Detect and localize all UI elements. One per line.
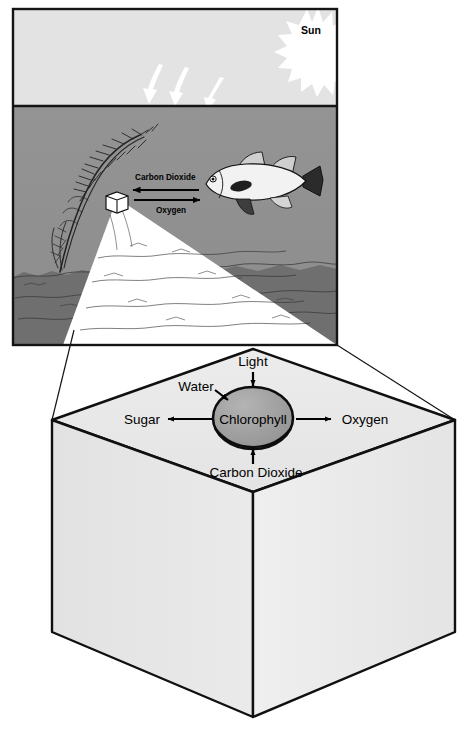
light-label: Light [238,354,268,369]
underwater-scene-panel: Sun [13,7,363,345]
chlorophyll-label: Chlorophyll [219,412,287,427]
fish-pupil [212,178,215,181]
figure-canvas: Sun [0,0,466,733]
chloroplast-closeup-cube: Light Water Sugar Chlorophyll Oxygen Car… [52,349,455,717]
magnifier-cube[interactable] [106,192,128,213]
photosynthesis-figure: Sun [0,0,466,733]
sugar-label: Sugar [124,412,161,427]
sun-label: Sun [301,24,321,36]
carbon-dioxide-label-closeup: Carbon Dioxide [209,465,302,480]
oxygen-label-closeup: Oxygen [342,412,389,427]
water-label: Water [178,379,214,394]
carbon-dioxide-label-scene: Carbon Dioxide [135,173,196,182]
oxygen-label-scene: Oxygen [156,206,186,215]
